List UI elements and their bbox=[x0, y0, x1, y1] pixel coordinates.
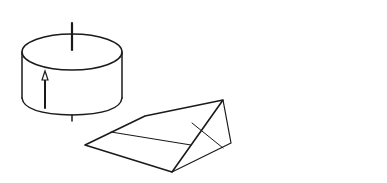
cylinder-vector-d-arrow bbox=[42, 71, 48, 108]
diagram-canvas bbox=[0, 0, 387, 183]
cylinder-shape bbox=[22, 23, 122, 121]
